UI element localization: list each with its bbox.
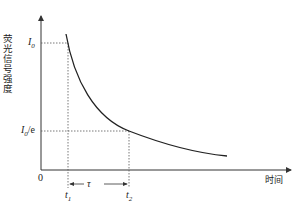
i0e-post: /e <box>28 124 35 135</box>
fluorescence-decay-diagram: 荧光信号强度 I0 I0/e 0 τ t1 t2 时间 <box>0 0 303 217</box>
i0e-label: I0/e <box>21 125 35 138</box>
origin-label: 0 <box>38 173 43 183</box>
t1-sub: 1 <box>68 195 72 203</box>
i0-sub: 0 <box>31 42 35 50</box>
t2-label: t2 <box>126 190 132 203</box>
decay-curve <box>66 34 227 156</box>
i0-label: I0 <box>28 37 35 50</box>
t2-sub: 2 <box>129 195 133 203</box>
x-axis-label: 时间 <box>265 176 283 185</box>
t1-label: t1 <box>65 190 71 203</box>
tau-label: τ <box>87 179 91 189</box>
diagram-svg <box>0 0 303 217</box>
y-axis-label: 荧光信号强度 <box>2 34 14 94</box>
